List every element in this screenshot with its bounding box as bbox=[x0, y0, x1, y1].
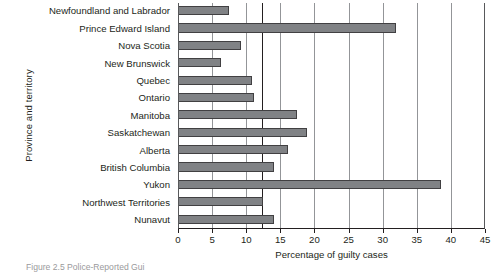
x-tick-5 bbox=[212, 229, 213, 233]
category-label-nova-scotia: Nova Scotia bbox=[0, 40, 173, 51]
x-tick-label-0: 0 bbox=[163, 234, 193, 245]
category-label-newfoundland-and-labrador: Newfoundland and Labrador bbox=[0, 5, 173, 16]
x-tick-40 bbox=[451, 229, 452, 233]
x-axis-title: Percentage of guilty cases bbox=[178, 249, 485, 260]
x-tick-0 bbox=[178, 229, 179, 233]
x-tick-15 bbox=[280, 229, 281, 233]
figure-caption: Figure 2.5 Police-Reported Gui bbox=[26, 262, 144, 272]
x-tick-30 bbox=[383, 229, 384, 233]
x-tick-label-45: 45 bbox=[470, 234, 495, 245]
x-tick-label-20: 20 bbox=[299, 234, 329, 245]
category-label-saskatchewan: Saskatchewan bbox=[0, 127, 173, 138]
x-tick-label-10: 10 bbox=[231, 234, 261, 245]
x-tick-label-5: 5 bbox=[197, 234, 227, 245]
category-label-new-brunswick: New Brunswick bbox=[0, 58, 173, 69]
x-tick-label-40: 40 bbox=[436, 234, 466, 245]
x-tick-label-35: 35 bbox=[402, 234, 432, 245]
category-label-yukon: Yukon bbox=[0, 179, 173, 190]
x-tick-25 bbox=[349, 229, 350, 233]
x-tick-label-25: 25 bbox=[334, 234, 364, 245]
x-tick-label-30: 30 bbox=[368, 234, 398, 245]
x-tick-20 bbox=[314, 229, 315, 233]
category-label-ontario: Ontario bbox=[0, 92, 173, 103]
plot-frame bbox=[178, 3, 485, 229]
category-label-quebec: Quebec bbox=[0, 75, 173, 86]
category-label-northwest-territories: Northwest Territories bbox=[0, 197, 173, 208]
plot-area bbox=[178, 3, 485, 229]
category-label-alberta: Alberta bbox=[0, 145, 173, 156]
x-tick-label-15: 15 bbox=[265, 234, 295, 245]
category-label-prince-edward-island: Prince Edward Island bbox=[0, 23, 173, 34]
x-tick-35 bbox=[417, 229, 418, 233]
category-label-british-columbia: British Columbia bbox=[0, 162, 173, 173]
category-label-manitoba: Manitoba bbox=[0, 110, 173, 121]
x-tick-10 bbox=[246, 229, 247, 233]
x-tick-45 bbox=[485, 229, 486, 233]
category-label-nunavut: Nunavut bbox=[0, 214, 173, 225]
